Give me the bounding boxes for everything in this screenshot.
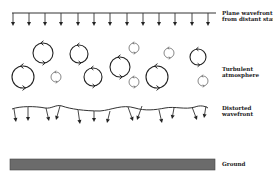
eddy-circle-icon: [129, 42, 139, 55]
distorted-arrow-icon: [46, 108, 48, 117]
arrowhead-icon: [190, 22, 194, 26]
eddy-circle-icon: [190, 47, 206, 67]
turbulent-eddies: [12, 41, 208, 91]
ground-rect: [10, 159, 215, 170]
distorted-arrow-icon: [159, 110, 161, 119]
arrowhead-icon: [27, 22, 31, 26]
arrowhead-icon: [92, 118, 96, 122]
distorted-wavefront-line: [12, 106, 208, 111]
distorted-arrow-icon: [192, 107, 196, 116]
label-distorted-line2: wavefront: [222, 111, 253, 117]
eddy-circle-icon: [51, 71, 61, 84]
eddy-circle-icon: [33, 41, 53, 65]
arrowhead-icon: [173, 22, 177, 26]
arrowhead-icon: [206, 22, 210, 26]
distorted-arrow-icon: [128, 107, 132, 117]
arrowhead-icon: [171, 115, 175, 119]
eddy-circle-icon: [110, 55, 130, 79]
arrowhead-icon: [46, 117, 50, 121]
arrowhead-icon: [203, 114, 207, 118]
ground-bar: [10, 159, 215, 170]
label-plane-wavefront-line2: from distant star: [222, 16, 273, 22]
eddy-circle-icon: [12, 64, 34, 91]
label-ground-line1: Ground: [222, 161, 246, 167]
arrowhead-icon: [159, 119, 163, 123]
arrowhead-icon: [59, 22, 63, 26]
arrowhead-icon: [108, 22, 112, 26]
eddy-circle-icon: [164, 47, 174, 60]
label-distorted-wavefront: Distorted wavefront: [222, 105, 253, 117]
distorted-arrow-icon: [14, 109, 15, 118]
arrowhead-icon: [77, 120, 81, 124]
eddy-circle-icon: [70, 43, 88, 65]
distorted-wavefront: [12, 106, 208, 124]
arrowhead-icon: [76, 22, 80, 26]
arrowhead-icon: [106, 119, 110, 123]
distorted-arrow-icon: [57, 106, 60, 116]
distorted-arrow-icon: [205, 106, 206, 114]
label-turbulent-atmosphere: Turbulent atmosphere: [222, 66, 259, 78]
eddy-circle-icon: [198, 75, 208, 88]
wavefront-diagram: [0, 0, 273, 179]
label-ground: Ground: [222, 161, 246, 167]
arrowhead-icon: [43, 22, 47, 26]
arrowhead-icon: [11, 22, 15, 26]
distorted-arrow-icon: [138, 106, 142, 116]
arrowhead-icon: [55, 116, 59, 120]
eddy-circle-icon: [129, 76, 139, 89]
distorted-arrow-icon: [173, 108, 174, 115]
distorted-arrow-icon: [78, 110, 79, 120]
label-plane-wavefront: Plane wavefront from distant star: [222, 10, 273, 22]
eddy-circle-icon: [84, 66, 102, 88]
arrowhead-icon: [125, 22, 129, 26]
arrowhead-icon: [92, 22, 96, 26]
arrowhead-icon: [141, 22, 145, 26]
arrowhead-icon: [13, 118, 17, 122]
label-turbulent-line2: atmosphere: [222, 72, 259, 78]
plane-wavefront: [11, 13, 216, 26]
distorted-arrow-icon: [108, 111, 110, 119]
eddy-circle-icon: [146, 64, 168, 91]
arrowhead-icon: [157, 22, 161, 26]
arrowhead-icon: [26, 117, 30, 121]
